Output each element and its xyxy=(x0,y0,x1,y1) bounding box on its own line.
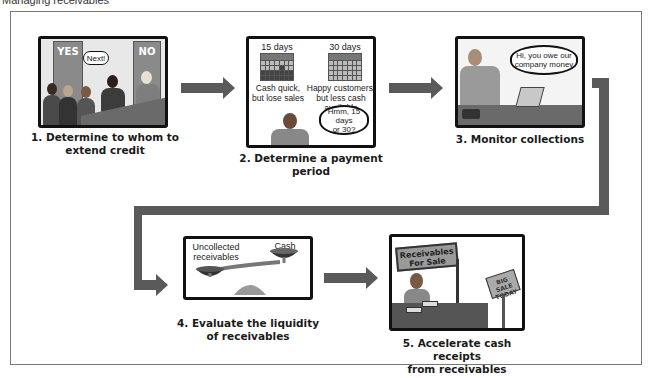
document-stack-icon xyxy=(422,301,438,307)
step-4-caption: 4. Evaluate the liquidity of receivables xyxy=(168,317,328,343)
balance-scale-icon xyxy=(186,239,310,297)
calendar-icon xyxy=(260,53,294,81)
arrow-right-icon xyxy=(324,267,380,289)
next-speech-bubble: Next! xyxy=(83,51,109,65)
person-icon xyxy=(59,97,77,127)
booth-post xyxy=(456,259,459,305)
option-15-days-title: 15 days xyxy=(257,42,297,52)
no-door-label: NO xyxy=(139,46,156,57)
page-caption: Managing receivables xyxy=(2,0,109,6)
person-icon xyxy=(81,86,91,98)
step-5-caption: 5. Accelerate cash receipts from receiva… xyxy=(377,337,537,376)
big-sale-post xyxy=(502,295,505,331)
person-icon xyxy=(107,75,118,88)
person-icon xyxy=(410,273,423,289)
person-icon xyxy=(47,83,57,95)
person-icon xyxy=(468,49,482,66)
step-4-panel: Uncollected receivables Cash xyxy=(183,236,313,300)
booth-sign: Receivables For Sale xyxy=(395,242,459,271)
calendar-icon xyxy=(328,53,362,81)
step-5-panel: Receivables For Sale BIG SALE TODAY xyxy=(389,234,525,331)
document-stack-icon xyxy=(406,307,422,313)
collection-speech-bubble: Hi, you owe our company money xyxy=(510,45,578,75)
yes-door-label: YES xyxy=(57,46,78,57)
person-icon xyxy=(63,85,73,97)
option-30-days-title: 30 days xyxy=(325,42,365,52)
